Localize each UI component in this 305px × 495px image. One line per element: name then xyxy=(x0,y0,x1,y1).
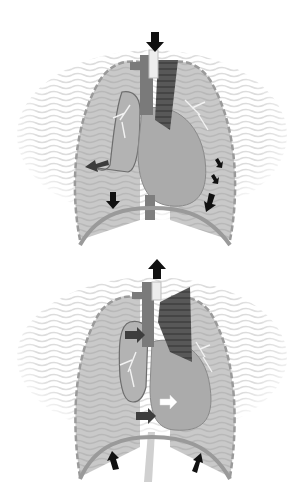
panel-expiration xyxy=(0,247,305,495)
trachea xyxy=(152,282,161,300)
thorax-illustration-inspiration xyxy=(0,0,305,248)
panel-inspiration xyxy=(0,0,305,248)
trachea xyxy=(149,50,158,78)
thorax-illustration-expiration xyxy=(0,247,305,495)
